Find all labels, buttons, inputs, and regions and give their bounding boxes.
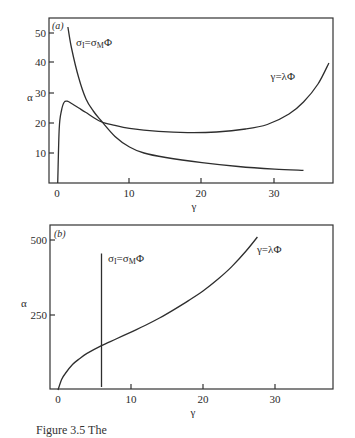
panel-a-xtick-label: 10	[124, 187, 136, 199]
panel-a-xtick-label: 30	[269, 187, 281, 199]
panel-a-sigma-label: σI=σMΦ	[76, 36, 112, 50]
panel-a-label: (a)	[52, 20, 64, 32]
panel-b: 500 250 0 10 20 30 α γ (b) σI=σMΦ γ=λΦ	[21, 225, 333, 418]
panel-b-ytick-label: 500	[31, 234, 48, 246]
panel-b-gamma-curve	[58, 237, 257, 390]
panel-b-xtick-label: 30	[270, 393, 282, 405]
panel-b-label: (b)	[54, 228, 66, 240]
panel-b-xtick-label: 10	[126, 393, 138, 405]
panel-a-ytick-label: 50	[35, 27, 47, 39]
panel-b-ylabel: α	[21, 297, 27, 309]
panel-a-xtick-label: 0	[54, 187, 60, 199]
panel-a-ylabel: α	[27, 91, 33, 103]
panel-a: 50 40 30 20 10 0 10 20 30 α γ (a) σI=σMΦ…	[27, 18, 333, 212]
panel-a-ytick-label: 40	[35, 56, 47, 68]
panel-a-xtick-label: 20	[196, 187, 208, 199]
panel-b-xtick-label: 0	[55, 393, 61, 405]
panel-b-gamma-label: γ=λΦ	[256, 243, 281, 255]
panel-b-ytick-label: 250	[31, 309, 48, 321]
panel-a-ytick-label: 20	[35, 117, 47, 129]
figure-caption: Figure 3.5 The	[36, 423, 107, 438]
panel-b-sigma-label: σI=σMΦ	[108, 252, 144, 266]
panel-a-xlabel: γ	[191, 200, 197, 212]
panel-b-xtick-label: 20	[198, 393, 210, 405]
panel-b-frame	[50, 225, 333, 389]
panel-a-ytick-label: 30	[35, 87, 47, 99]
panel-a-ytick-label: 10	[35, 147, 47, 159]
panel-a-gamma-label: γ=λΦ	[270, 70, 295, 82]
panel-b-xlabel: γ	[190, 406, 196, 418]
